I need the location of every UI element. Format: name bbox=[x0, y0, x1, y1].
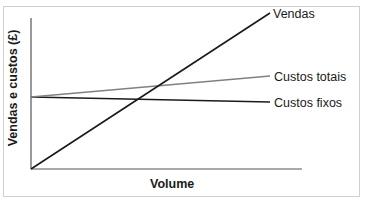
sales-line bbox=[31, 13, 270, 169]
total-costs-line bbox=[31, 76, 270, 97]
x-axis-label: Volume bbox=[150, 177, 194, 191]
y-axis-label: Vendas e custos (£) bbox=[6, 30, 20, 147]
fixed-costs-line bbox=[31, 97, 270, 102]
fixed-costs-label: Custos fixos bbox=[274, 96, 342, 110]
total-costs-label: Custos totais bbox=[274, 70, 346, 84]
sales-label: Vendas bbox=[273, 7, 315, 21]
